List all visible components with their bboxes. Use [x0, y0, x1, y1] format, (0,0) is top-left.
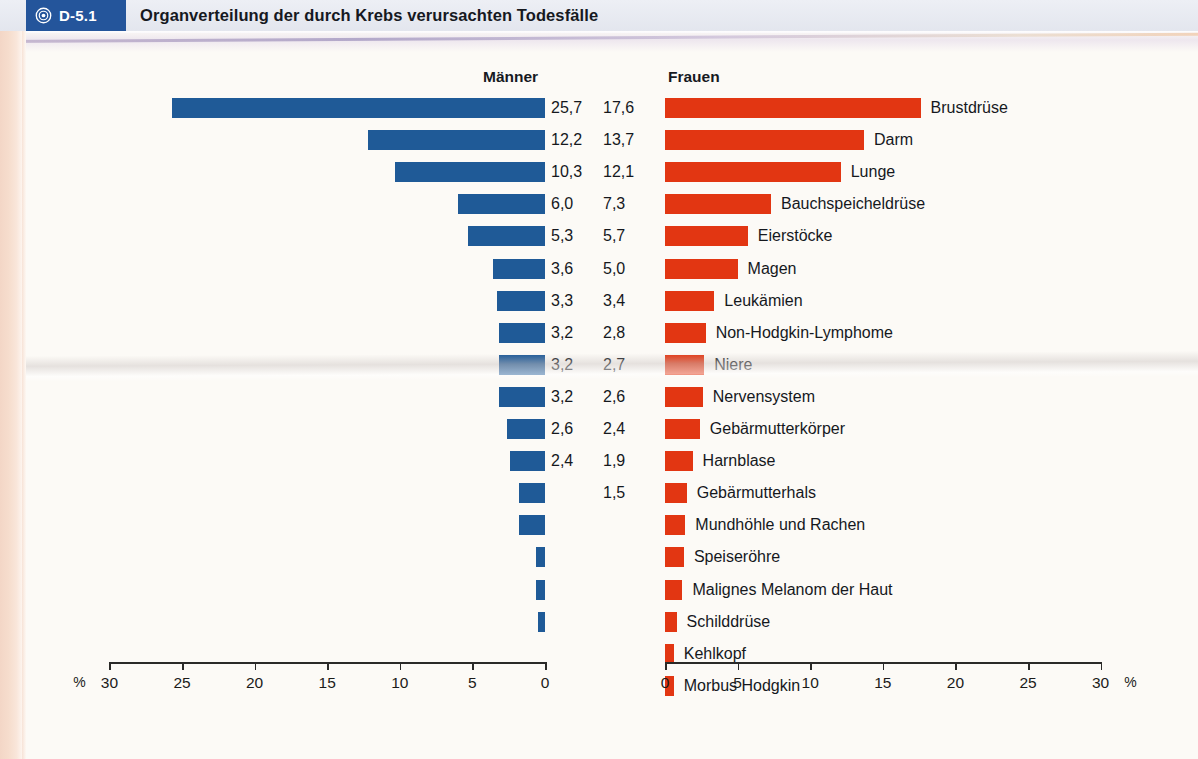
bar-row-women: 1,5Gebärmutterhals [0, 481, 1198, 505]
bar-value-women: 1,5 [603, 481, 655, 505]
bar-value-women [603, 610, 655, 634]
bar-value-women: 5,7 [603, 224, 655, 248]
bar-chart: Männer Frauen Lunge25,7Darm12,2Prostata1… [0, 52, 1198, 759]
axis-tick [1101, 662, 1103, 670]
bar-women [665, 130, 864, 150]
axis-unit-label: % [1124, 674, 1136, 690]
bar-row-women: 2,4Gebärmutterkörper [0, 417, 1198, 441]
bar-value-women [603, 513, 655, 537]
bar-value-women: 2,4 [603, 417, 655, 441]
bar-label-women: Bauchspeicheldrüse [781, 192, 925, 216]
axis-tick-label: 25 [1019, 674, 1036, 692]
bar-row-women: 2,7Niere [0, 353, 1198, 377]
bar-women [665, 291, 714, 311]
bar-row-women: 1,9Harnblase [0, 449, 1198, 473]
bar-row-women: 5,0Magen [0, 257, 1198, 281]
axis-unit-label: % [73, 674, 85, 690]
bar-women [665, 387, 703, 407]
bar-women [665, 162, 841, 182]
x-axis-men: 051015202530% [0, 662, 598, 708]
axis-tick-label: 25 [173, 674, 190, 692]
axis-tick-label: 30 [101, 674, 118, 692]
bar-women [665, 612, 677, 632]
axis-tick-label: 15 [319, 674, 336, 692]
bar-label-women: Gebärmutterhals [697, 481, 816, 505]
scan-artifact-streak [0, 33, 1198, 43]
axis-tick [182, 662, 184, 670]
axis-tick-label: 20 [246, 674, 263, 692]
axis-tick-label: 0 [541, 674, 550, 692]
bar-women [665, 98, 921, 118]
bar-label-women: Leukämien [724, 289, 802, 313]
bar-row-women: Mundhöhle und Rachen [0, 513, 1198, 537]
axis-tick [810, 662, 812, 670]
axis-tick [1028, 662, 1030, 670]
bar-row-women: 3,4Leukämien [0, 289, 1198, 313]
bar-row-women: 12,1Lunge [0, 160, 1198, 184]
bar-women [665, 259, 738, 279]
bar-value-women: 5,0 [603, 257, 655, 281]
bar-label-women: Niere [714, 353, 752, 377]
figure-title: Organverteilung der durch Krebs verursac… [140, 0, 598, 31]
bar-row-women: Speiseröhre [0, 545, 1198, 569]
bar-women [665, 419, 700, 439]
bullseye-icon [35, 7, 52, 24]
bar-row-women: 13,7Darm [0, 128, 1198, 152]
bar-value-women: 2,6 [603, 385, 655, 409]
bar-women [665, 580, 682, 600]
bar-label-women: Brustdrüse [931, 96, 1008, 120]
bar-label-women: Nervensystem [713, 385, 815, 409]
axis-tick-label: 0 [661, 674, 670, 692]
axis-tick-label: 10 [391, 674, 408, 692]
bar-women [665, 644, 674, 664]
bar-value-women [603, 545, 655, 569]
header-rule [0, 31, 1198, 33]
axis-tick [545, 662, 547, 670]
axis-tick-label: 10 [802, 674, 819, 692]
bar-label-women: Speiseröhre [694, 545, 780, 569]
bar-women [665, 515, 685, 535]
bar-value-women: 2,8 [603, 321, 655, 345]
axis-tick-label: 15 [874, 674, 891, 692]
bar-row-women: 2,6Nervensystem [0, 385, 1198, 409]
bar-label-women: Gebärmutterkörper [710, 417, 845, 441]
figure-number-label: D-5.1 [59, 7, 97, 24]
axis-tick-label: 30 [1092, 674, 1109, 692]
bar-row-women: 5,7Eierstöcke [0, 224, 1198, 248]
axis-tick [472, 662, 474, 670]
bar-label-women: Lunge [851, 160, 896, 184]
bar-value-women: 3,4 [603, 289, 655, 313]
axis-tick [955, 662, 957, 670]
bar-row-women: Malignes Melanom der Haut [0, 578, 1198, 602]
axis-tick [400, 662, 402, 670]
bar-women [665, 194, 771, 214]
column-header-maenner: Männer [483, 68, 538, 86]
axis-tick [255, 662, 257, 670]
bar-row-women: 2,8Non-Hodgkin-Lymphome [0, 321, 1198, 345]
bar-label-women: Schilddrüse [687, 610, 771, 634]
page-canvas: D-5.1 Organverteilung der durch Krebs ve… [0, 0, 1198, 759]
bar-row-women: Schilddrüse [0, 610, 1198, 634]
axis-tick-label: 20 [947, 674, 964, 692]
bar-row-women: 7,3Bauchspeicheldrüse [0, 192, 1198, 216]
bar-value-women: 1,9 [603, 449, 655, 473]
axis-tick [883, 662, 885, 670]
bar-value-women: 17,6 [603, 96, 655, 120]
x-axis-women: 051015202530% [598, 662, 1198, 708]
bar-label-women: Non-Hodgkin-Lymphome [716, 321, 893, 345]
figure-header: D-5.1 Organverteilung der durch Krebs ve… [0, 0, 1198, 31]
bar-women [665, 226, 748, 246]
bar-label-women: Eierstöcke [758, 224, 833, 248]
bar-value-women: 12,1 [603, 160, 655, 184]
figure-number-badge: D-5.1 [26, 0, 126, 31]
scan-artifact-top-band [0, 30, 1198, 52]
bar-value-women [603, 578, 655, 602]
bar-label-women: Mundhöhle und Rachen [695, 513, 865, 537]
axis-tick [738, 662, 740, 670]
bar-label-women: Malignes Melanom der Haut [692, 578, 892, 602]
bar-value-women: 7,3 [603, 192, 655, 216]
column-header-frauen: Frauen [668, 68, 720, 86]
axis-tick-label: 5 [468, 674, 477, 692]
bar-value-women: 13,7 [603, 128, 655, 152]
bar-women [665, 451, 693, 471]
